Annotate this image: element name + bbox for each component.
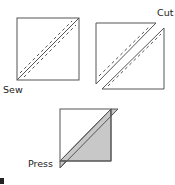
step-label-sew: Sew: [3, 85, 23, 95]
step-label-cut: Cut: [157, 8, 173, 18]
step-label-press: Press: [28, 159, 53, 169]
cut-triangles: [96, 23, 164, 89]
press-square: [60, 109, 118, 168]
diagram-canvas: [0, 0, 175, 185]
sew-square: [17, 18, 79, 80]
corner-marker: [0, 178, 4, 184]
